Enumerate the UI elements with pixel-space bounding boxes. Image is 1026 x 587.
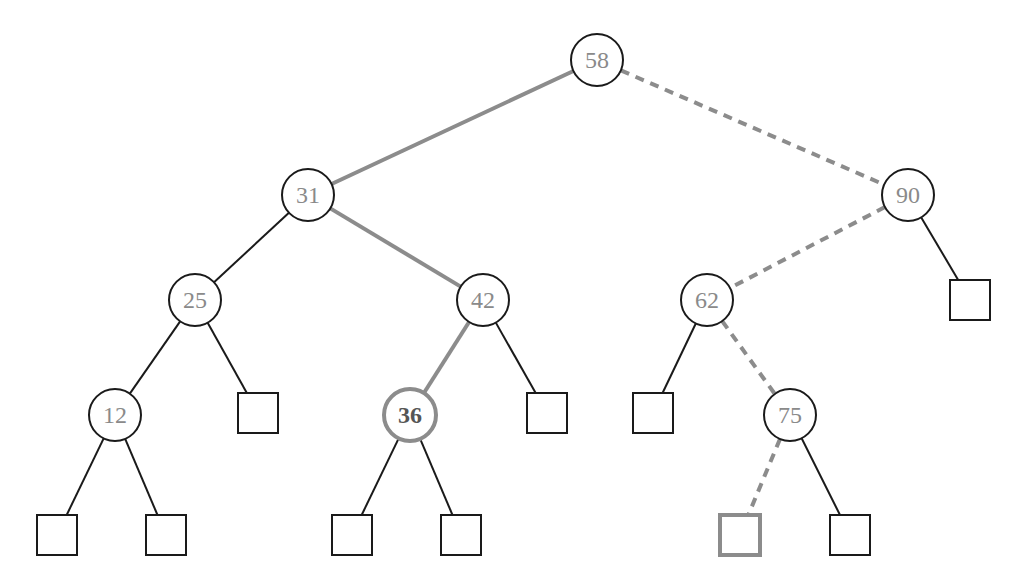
node-key-label: 75 — [778, 402, 802, 428]
external-leaf-node — [950, 280, 990, 320]
tree-canvas: 583190254262123675 — [0, 0, 1026, 587]
node-key-label: 58 — [585, 47, 609, 73]
tree-node-75: 75 — [764, 389, 816, 441]
external-leaf-node — [238, 393, 278, 433]
tree-edge — [362, 438, 399, 515]
tree-edge — [332, 71, 574, 184]
node-key-label: 42 — [471, 287, 495, 313]
external-leaf-node — [527, 393, 567, 433]
tree-edge — [424, 322, 469, 393]
external-leaf-node — [37, 515, 77, 555]
tree-node-90: 90 — [882, 169, 934, 221]
tree-node-58: 58 — [571, 34, 623, 86]
external-leaf-node — [441, 515, 481, 555]
tree-edge — [130, 321, 180, 393]
node-key-label: 62 — [695, 287, 719, 313]
external-leaf-node — [332, 515, 372, 555]
external-leaf-node-highlighted — [720, 515, 760, 555]
external-leaf-node — [830, 515, 870, 555]
node-key-label: 31 — [296, 182, 320, 208]
tree-edge — [730, 207, 885, 288]
tree-edge — [921, 217, 958, 280]
tree-node-42: 42 — [457, 274, 509, 326]
tree-node-25: 25 — [169, 274, 221, 326]
tree-edge — [67, 438, 104, 515]
tree-node-36: 36 — [384, 389, 436, 441]
tree-edge — [802, 438, 840, 515]
tree-edge — [748, 439, 780, 515]
tree-edge — [330, 208, 460, 286]
tree-edge — [621, 70, 884, 184]
external-leaf-node — [633, 393, 673, 433]
tree-node-12: 12 — [89, 389, 141, 441]
external-leaf-node — [146, 515, 186, 555]
tree-edge — [663, 323, 696, 393]
node-key-label: 12 — [103, 402, 127, 428]
tree-edge — [208, 323, 247, 393]
node-key-label: 90 — [896, 182, 920, 208]
tree-edge — [125, 439, 157, 515]
tree-edge — [722, 321, 775, 394]
tree-edge — [496, 323, 536, 393]
node-key-label: 25 — [183, 287, 207, 313]
tree-edge — [214, 213, 289, 283]
tree-edge — [420, 439, 452, 515]
tree-node-62: 62 — [681, 274, 733, 326]
tree-node-31: 31 — [282, 169, 334, 221]
bst-diagram: 583190254262123675 — [0, 0, 1026, 587]
nodes-layer: 583190254262123675 — [89, 34, 934, 441]
node-key-label: 36 — [398, 402, 422, 428]
